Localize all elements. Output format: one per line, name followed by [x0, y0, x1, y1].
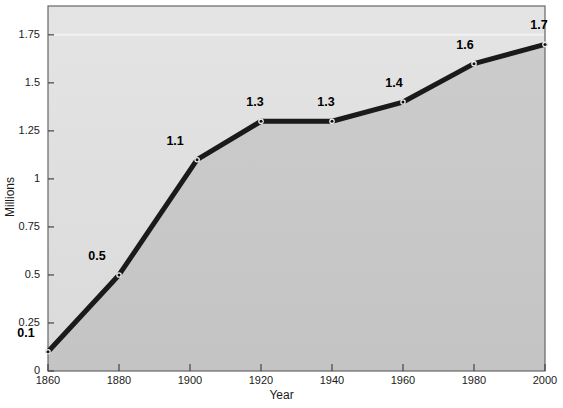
y-tick-label-3: 0.75: [0, 220, 40, 232]
y-tick-label-6: 1.5: [0, 76, 40, 88]
x-tick-label-6: 1980: [444, 374, 504, 386]
data-point-label-4: 1.3: [306, 95, 346, 109]
x-tick-label-0: 1860: [18, 374, 78, 386]
x-tick-label-3: 1920: [231, 374, 291, 386]
chart-container: Millions Year 00.250.50.7511.251.51.75 1…: [0, 0, 563, 408]
y-tick-label-5: 1.25: [0, 124, 40, 136]
line-chart-plot: [0, 0, 563, 408]
data-point-label-1: 0.5: [77, 249, 117, 263]
x-tick-label-5: 1960: [373, 374, 433, 386]
y-tick-label-2: 0.5: [0, 268, 40, 280]
x-tick-label-4: 1940: [302, 374, 362, 386]
data-point-label-0: 0.1: [6, 326, 46, 340]
data-point-label-6: 1.6: [445, 38, 485, 52]
data-point-label-5: 1.4: [374, 76, 414, 90]
data-point-label-7: 1.7: [519, 18, 559, 32]
x-tick-label-2: 1900: [160, 374, 220, 386]
x-tick-label-1: 1880: [89, 374, 149, 386]
y-tick-label-4: 1: [0, 172, 40, 184]
data-point-label-2: 1.1: [155, 134, 195, 148]
data-point-label-3: 1.3: [235, 95, 275, 109]
x-tick-label-7: 2000: [515, 374, 563, 386]
y-tick-label-7: 1.75: [0, 28, 40, 40]
x-axis-title: Year: [0, 388, 563, 402]
